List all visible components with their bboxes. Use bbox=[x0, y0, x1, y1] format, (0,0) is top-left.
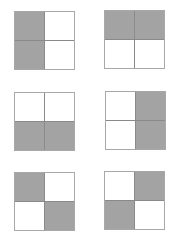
empty-cell bbox=[106, 121, 136, 150]
grid-square-row2-right bbox=[105, 91, 166, 150]
shaded-cell bbox=[45, 202, 75, 231]
empty-cell bbox=[45, 173, 75, 202]
grid-square-row3-right bbox=[104, 171, 165, 230]
shaded-cell bbox=[136, 92, 166, 121]
grid-square-row2-left bbox=[14, 92, 75, 151]
empty-cell bbox=[105, 40, 135, 69]
shaded-cell bbox=[15, 173, 45, 202]
empty-cell bbox=[105, 172, 135, 201]
shaded-cell bbox=[15, 41, 45, 70]
empty-cell bbox=[45, 93, 75, 122]
shaded-cell bbox=[136, 121, 166, 150]
empty-cell bbox=[45, 41, 75, 70]
empty-cell bbox=[15, 93, 45, 122]
empty-cell bbox=[106, 92, 136, 121]
grid-square-row1-left bbox=[14, 11, 75, 70]
shaded-cell bbox=[15, 122, 45, 151]
empty-cell bbox=[135, 40, 165, 69]
shaded-cell bbox=[105, 11, 135, 40]
shaded-cell bbox=[45, 122, 75, 151]
grid-square-row1-right bbox=[104, 10, 165, 69]
shaded-cell bbox=[135, 11, 165, 40]
shaded-cell bbox=[105, 201, 135, 230]
empty-cell bbox=[15, 202, 45, 231]
shaded-cell bbox=[135, 172, 165, 201]
shaded-cell bbox=[15, 12, 45, 41]
empty-cell bbox=[135, 201, 165, 230]
grid-square-row3-left bbox=[14, 172, 75, 231]
empty-cell bbox=[45, 12, 75, 41]
